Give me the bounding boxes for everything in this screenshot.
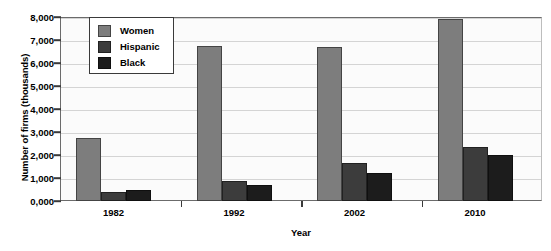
x-axis-tick-label-1982: 1982: [103, 207, 124, 218]
legend-item-hispanic: Hispanic: [98, 39, 173, 54]
bar-women-2002: [317, 47, 342, 201]
bar-black-1982: [126, 190, 151, 201]
y-axis-tick-mark: [54, 62, 61, 64]
chart-legend: WomenHispanicBlack: [89, 17, 174, 74]
y-axis-tick-mark: [54, 154, 61, 156]
y-axis-tick-mark: [54, 200, 61, 202]
bar-hispanic-2002: [342, 163, 367, 201]
legend-swatch-icon: [98, 57, 111, 69]
y-axis-tick-label: 2,000: [30, 150, 54, 161]
y-axis-tick-mark: [54, 39, 61, 41]
bar-black-2002: [367, 173, 392, 201]
legend-label: Black: [120, 57, 145, 68]
legend-item-black: Black: [98, 55, 173, 70]
x-axis-tick-label-2010: 2010: [464, 207, 485, 218]
legend-label: Hispanic: [120, 41, 160, 52]
y-axis-tick-label: 5,000: [30, 81, 54, 92]
y-axis-tick-labels: 0,0001,0002,0003,0004,0005,0006,0007,000…: [20, 17, 54, 201]
y-axis-tick-label: 1,000: [30, 173, 54, 184]
y-axis-tick-mark: [54, 108, 61, 110]
y-axis-tick-mark: [54, 177, 61, 179]
bar-black-1992: [247, 185, 272, 201]
bar-hispanic-1982: [101, 192, 126, 201]
bar-hispanic-2010: [463, 147, 488, 201]
x-axis-tick-mark: [181, 201, 183, 207]
y-axis-tick-mark: [54, 131, 61, 133]
y-axis-tick-label: 3,000: [30, 127, 54, 138]
y-axis-tick-label: 8,000: [30, 12, 54, 23]
x-axis-tick-label-2002: 2002: [344, 207, 365, 218]
x-axis-title: Year: [60, 227, 542, 238]
legend-item-women: Women: [98, 23, 173, 38]
y-axis-tick-mark: [54, 85, 61, 87]
bar-hispanic-1992: [222, 181, 247, 201]
y-axis-tick-label: 0,000: [30, 196, 54, 207]
bar-women-1982: [76, 138, 101, 201]
legend-swatch-icon: [98, 25, 111, 37]
legend-swatch-icon: [98, 41, 111, 53]
bar-black-2010: [488, 155, 513, 201]
bar-chart: Number of firms (thousands) 0,0001,0002,…: [0, 0, 551, 251]
legend-label: Women: [120, 25, 154, 36]
bar-women-1992: [197, 46, 222, 201]
x-axis-tick-label-1992: 1992: [223, 207, 244, 218]
y-axis-tick-label: 4,000: [30, 104, 54, 115]
y-axis-tick-mark: [54, 16, 61, 18]
y-axis-tick-label: 7,000: [30, 35, 54, 46]
x-axis-tick-mark: [301, 201, 303, 207]
x-axis-tick-labels: 1982199220022010: [60, 207, 542, 221]
y-axis-tick-label: 6,000: [30, 58, 54, 69]
bar-women-2010: [438, 19, 463, 201]
x-axis-tick-mark: [422, 201, 424, 207]
